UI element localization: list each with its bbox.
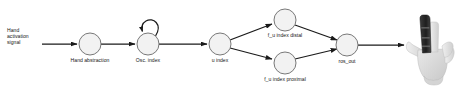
- node-ros-out[interactable]: [336, 34, 358, 56]
- node-f-u-index-distal[interactable]: [274, 9, 296, 31]
- edge-f-u-index-proximal-to-ros-out: [295, 49, 337, 59]
- node-label-hand-abstraction: Hand abstraction: [71, 57, 110, 63]
- graph-edges-and-nodes: [0, 0, 467, 91]
- node-label-u-index: u index: [212, 57, 229, 63]
- robotic-hand-photo: [404, 6, 464, 86]
- node-label-f-u-index-distal: f_u index distal: [268, 32, 302, 38]
- node-label-ros-out: ros_out: [338, 58, 355, 64]
- diagram-canvas: Hand activation signal Hand abstraction …: [0, 0, 467, 91]
- input-signal-label: Hand activation signal: [7, 27, 29, 46]
- node-label-f-u-index-proximal: f_u index proximal: [264, 76, 306, 82]
- node-osc-index[interactable]: [137, 33, 159, 55]
- node-f-u-index-proximal[interactable]: [274, 52, 296, 74]
- edge-u-index-to-f-u-index-distal: [230, 24, 272, 40]
- edge-u-index-to-f-u-index-proximal: [230, 48, 272, 59]
- node-hand-abstraction[interactable]: [79, 33, 101, 55]
- node-u-index[interactable]: [209, 33, 231, 55]
- node-label-osc-index: Osc. index: [136, 57, 160, 63]
